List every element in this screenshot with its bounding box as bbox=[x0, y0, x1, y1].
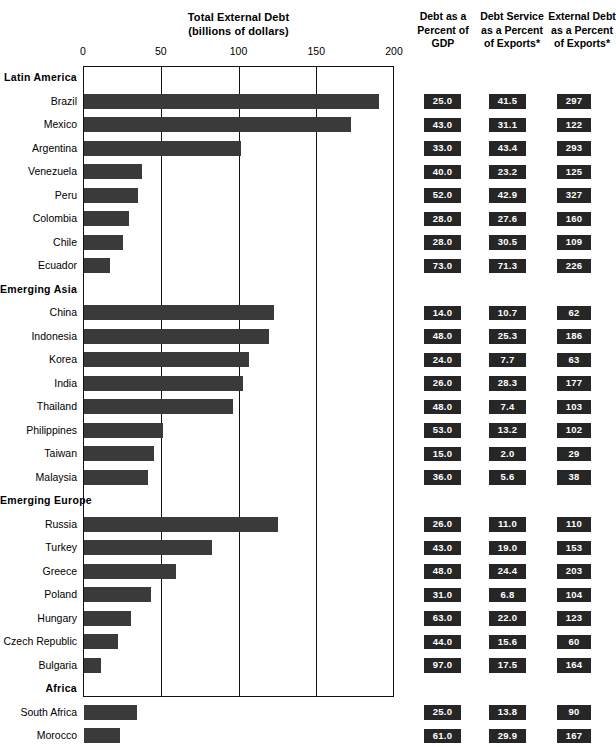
value-external-debt-percent-exports: 60 bbox=[557, 635, 591, 650]
country-label: Hungary bbox=[0, 607, 77, 631]
country-label: Brazil bbox=[0, 90, 77, 114]
bar-total-external-debt bbox=[84, 352, 249, 367]
group-row: Emerging Asia bbox=[0, 278, 608, 302]
value-external-debt-percent-exports: 90 bbox=[557, 705, 591, 720]
bar-total-external-debt bbox=[84, 446, 154, 461]
bar-total-external-debt bbox=[84, 611, 131, 626]
country-label: Poland bbox=[0, 583, 77, 607]
value-debt-percent-gdp: 24.0 bbox=[424, 353, 461, 368]
value-external-debt-percent-exports: 125 bbox=[557, 165, 591, 180]
value-debt-service-percent-exports: 10.7 bbox=[489, 306, 526, 321]
value-debt-percent-gdp: 28.0 bbox=[424, 235, 461, 250]
bar-total-external-debt bbox=[84, 94, 379, 109]
value-external-debt-percent-exports: 63 bbox=[557, 353, 591, 368]
value-debt-service-percent-exports: 30.5 bbox=[489, 235, 526, 250]
table-row: India26.028.3177 bbox=[0, 372, 608, 396]
value-debt-service-percent-exports: 29.9 bbox=[489, 729, 526, 744]
group-row: Africa bbox=[0, 677, 608, 701]
value-debt-service-percent-exports: 43.4 bbox=[489, 141, 526, 156]
value-external-debt-percent-exports: 297 bbox=[557, 94, 591, 109]
value-debt-percent-gdp: 26.0 bbox=[424, 376, 461, 391]
country-label: Thailand bbox=[0, 395, 77, 419]
table-row: Indonesia48.025.3186 bbox=[0, 325, 608, 349]
value-external-debt-percent-exports: 293 bbox=[557, 141, 591, 156]
table-row: Czech Republic44.015.660 bbox=[0, 630, 608, 654]
bar-total-external-debt bbox=[84, 141, 241, 156]
bar-total-external-debt bbox=[84, 235, 123, 250]
value-debt-percent-gdp: 52.0 bbox=[424, 188, 461, 203]
bar-total-external-debt bbox=[84, 517, 278, 532]
table-row: Venezuela40.023.2125 bbox=[0, 160, 608, 184]
value-debt-service-percent-exports: 23.2 bbox=[489, 165, 526, 180]
group-row: Latin America bbox=[0, 66, 608, 90]
country-label: Indonesia bbox=[0, 325, 77, 349]
value-external-debt-percent-exports: 29 bbox=[557, 447, 591, 462]
value-debt-percent-gdp: 73.0 bbox=[424, 259, 461, 274]
value-debt-percent-gdp: 33.0 bbox=[424, 141, 461, 156]
value-debt-service-percent-exports: 71.3 bbox=[489, 259, 526, 274]
bar-total-external-debt bbox=[84, 705, 137, 720]
country-label: Greece bbox=[0, 560, 77, 584]
table-row: Greece48.024.4203 bbox=[0, 560, 608, 584]
country-label: Mexico bbox=[0, 113, 77, 137]
bar-total-external-debt bbox=[84, 376, 243, 391]
bar-total-external-debt bbox=[84, 540, 212, 555]
value-debt-service-percent-exports: 15.6 bbox=[489, 635, 526, 650]
value-debt-percent-gdp: 14.0 bbox=[424, 306, 461, 321]
group-label: Latin America bbox=[0, 66, 77, 90]
value-debt-percent-gdp: 48.0 bbox=[424, 329, 461, 344]
table-row: Ecuador73.071.3226 bbox=[0, 254, 608, 278]
x-tick-label: 200 bbox=[385, 45, 403, 57]
value-debt-percent-gdp: 53.0 bbox=[424, 423, 461, 438]
chart-title: Total External Debt (billions of dollars… bbox=[83, 10, 394, 38]
value-external-debt-percent-exports: 164 bbox=[557, 658, 591, 673]
group-label: Emerging Europe bbox=[0, 489, 77, 513]
x-tick-label: 100 bbox=[230, 45, 248, 57]
x-tick-label: 50 bbox=[155, 45, 167, 57]
value-debt-percent-gdp: 97.0 bbox=[424, 658, 461, 673]
bar-total-external-debt bbox=[84, 211, 129, 226]
country-label: Taiwan bbox=[0, 442, 77, 466]
table-row: Morocco61.029.9167 bbox=[0, 724, 608, 747]
country-label: Malaysia bbox=[0, 466, 77, 490]
bar-total-external-debt bbox=[84, 423, 163, 438]
value-external-debt-percent-exports: 122 bbox=[557, 118, 591, 133]
chart-title-line2: (billions of dollars) bbox=[83, 24, 394, 38]
table-row: Korea24.07.763 bbox=[0, 348, 608, 372]
x-tick-label: 150 bbox=[307, 45, 325, 57]
table-row: Argentina33.043.4293 bbox=[0, 137, 608, 161]
country-label: China bbox=[0, 301, 77, 325]
country-label: Morocco bbox=[0, 724, 77, 747]
value-debt-service-percent-exports: 19.0 bbox=[489, 541, 526, 556]
value-debt-service-percent-exports: 7.7 bbox=[489, 353, 526, 368]
bar-total-external-debt bbox=[84, 258, 110, 273]
table-row: Philippines53.013.2102 bbox=[0, 419, 608, 443]
group-label: Africa bbox=[0, 677, 77, 701]
bar-total-external-debt bbox=[84, 329, 269, 344]
table-row: Brazil25.041.5297 bbox=[0, 90, 608, 114]
country-label: Colombia bbox=[0, 207, 77, 231]
value-external-debt-percent-exports: 104 bbox=[557, 588, 591, 603]
table-row: Peru52.042.9327 bbox=[0, 184, 608, 208]
country-label: Peru bbox=[0, 184, 77, 208]
value-debt-percent-gdp: 28.0 bbox=[424, 212, 461, 227]
country-label: South Africa bbox=[0, 701, 77, 725]
bar-total-external-debt bbox=[84, 305, 274, 320]
table-row: Colombia28.027.6160 bbox=[0, 207, 608, 231]
value-debt-percent-gdp: 61.0 bbox=[424, 729, 461, 744]
country-label: Russia bbox=[0, 513, 77, 537]
value-debt-service-percent-exports: 27.6 bbox=[489, 212, 526, 227]
value-debt-service-percent-exports: 41.5 bbox=[489, 94, 526, 109]
value-debt-percent-gdp: 25.0 bbox=[424, 94, 461, 109]
value-debt-service-percent-exports: 5.6 bbox=[489, 470, 526, 485]
value-external-debt-percent-exports: 110 bbox=[557, 517, 591, 532]
country-label: Argentina bbox=[0, 137, 77, 161]
value-debt-percent-gdp: 26.0 bbox=[424, 517, 461, 532]
value-external-debt-percent-exports: 102 bbox=[557, 423, 591, 438]
bar-total-external-debt bbox=[84, 564, 176, 579]
bar-total-external-debt bbox=[84, 470, 148, 485]
bar-total-external-debt bbox=[84, 188, 138, 203]
value-external-debt-percent-exports: 203 bbox=[557, 564, 591, 579]
country-label: Turkey bbox=[0, 536, 77, 560]
